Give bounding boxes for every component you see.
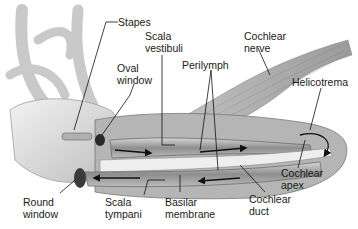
cochlea-diagram: Stapes Scala vestibuli Cochlear nerve Ov… [0, 0, 358, 229]
stapes-shape [62, 133, 92, 140]
label-basilar-membrane: Basilar membrane [165, 197, 215, 220]
label-helicotrema: Helicotrema [292, 77, 348, 89]
oval-window-shape [95, 134, 105, 146]
label-perilymph: Perilymph [182, 60, 229, 72]
label-oval-window: Oval window [117, 63, 152, 86]
label-scala-tympani: Scala tympani [105, 197, 142, 220]
label-cochlear-duct: Cochlear duct [249, 194, 291, 217]
label-scala-vestibuli: Scala vestibuli [145, 31, 183, 54]
label-stapes: Stapes [118, 17, 151, 29]
label-cochlear-apex: Cochlear apex [281, 168, 323, 191]
round-window-shape [74, 168, 86, 188]
label-cochlear-nerve: Cochlear nerve [244, 31, 286, 54]
label-round-window: Round window [23, 197, 58, 220]
